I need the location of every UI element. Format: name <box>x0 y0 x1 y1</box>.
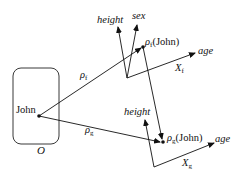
object-space-label: O <box>37 145 45 156</box>
xf-height-label: height <box>97 15 123 26</box>
xg-height-label: height <box>124 107 150 118</box>
xf-space-label: Xf <box>175 63 184 75</box>
rho-g-label: ρg <box>85 125 94 137</box>
xf-age-label: age <box>198 46 213 57</box>
rho-g-john-label: ρg(John) <box>167 133 202 145</box>
john-label: John <box>16 105 36 116</box>
rho-f-label: ρf <box>80 70 87 82</box>
xf-height-axis <box>118 27 127 78</box>
xg-space-label: Xg <box>182 158 192 170</box>
xf-sex-label: sex <box>132 11 145 22</box>
rho-f-john-label: ρf(John) <box>145 37 179 49</box>
xf-age-axis <box>127 53 195 78</box>
diagram-canvas <box>0 0 240 180</box>
xg-age-label: age <box>215 134 230 145</box>
rho-g-arrow <box>39 116 160 142</box>
xg-height-axis <box>145 120 154 167</box>
rho-g-john-point <box>161 140 165 144</box>
